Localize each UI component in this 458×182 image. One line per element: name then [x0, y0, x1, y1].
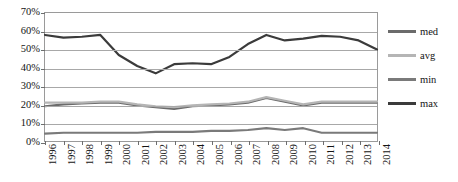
- y-axis-tick: [41, 50, 45, 51]
- y-axis-tick: [41, 124, 45, 125]
- x-axis-tick-label: 2009: [289, 144, 299, 165]
- x-axis-tick-label: 2011: [326, 144, 336, 165]
- y-axis-tick: [41, 87, 45, 88]
- y-axis-tick-label: 10%: [2, 118, 40, 128]
- legend-swatch-max: [388, 102, 416, 105]
- series-line-max: [45, 35, 377, 73]
- legend-swatch-med: [388, 30, 416, 33]
- x-axis-tick-label: 1996: [48, 144, 58, 165]
- x-axis-tick-label: 2014: [382, 144, 392, 165]
- y-axis-tick-label: 60%: [2, 26, 40, 36]
- x-axis-tick-label: 2001: [141, 144, 151, 165]
- gridline: [45, 87, 377, 88]
- legend-swatch-avg: [388, 54, 416, 57]
- legend-swatch-min: [388, 78, 416, 81]
- x-axis-tick-label: 2013: [363, 144, 373, 165]
- legend-label-max: max: [420, 98, 438, 109]
- x-axis-tick-label: 2008: [271, 144, 281, 165]
- legend-label-avg: avg: [420, 50, 435, 61]
- x-axis-tick-label: 2010: [308, 144, 318, 165]
- x-axis-tick-label: 2006: [234, 144, 244, 165]
- gridline: [45, 124, 377, 125]
- y-axis-tick-label: 40%: [2, 63, 40, 73]
- series-line-min: [45, 128, 377, 133]
- x-axis-tick-label: 1997: [67, 144, 77, 165]
- y-axis-labels: 0%10%20%30%40%50%60%70%: [0, 12, 40, 142]
- legend-item-min[interactable]: min: [388, 72, 436, 86]
- legend-label-med: med: [420, 26, 438, 37]
- y-axis-tick-label: 70%: [2, 7, 40, 17]
- x-axis-tick-label: 2004: [196, 144, 206, 165]
- x-axis-tick-label: 2012: [345, 144, 355, 165]
- y-axis-tick-label: 20%: [2, 100, 40, 110]
- gridline: [45, 69, 377, 70]
- x-axis-tick-label: 2005: [215, 144, 225, 165]
- y-axis-tick: [41, 32, 45, 33]
- chart-legend: medavgminmax: [388, 24, 458, 124]
- x-axis-tick: [379, 141, 380, 145]
- y-axis-tick: [41, 69, 45, 70]
- legend-item-max[interactable]: max: [388, 96, 438, 110]
- y-axis-tick-label: 30%: [2, 81, 40, 91]
- x-axis-labels: 1996199719981999200020012002200320042005…: [44, 144, 378, 182]
- y-axis-tick: [41, 13, 45, 14]
- chart-container: 0%10%20%30%40%50%60%70% 1996199719981999…: [0, 0, 458, 182]
- plot-area: [44, 12, 378, 142]
- x-axis-tick-label: 1999: [104, 144, 114, 165]
- legend-item-med[interactable]: med: [388, 24, 438, 38]
- x-axis-tick-label: 2000: [122, 144, 132, 165]
- x-axis-tick-label: 2007: [252, 144, 262, 165]
- x-axis-tick-label: 1998: [85, 144, 95, 165]
- x-axis-tick-label: 2002: [159, 144, 169, 165]
- y-axis-tick: [41, 106, 45, 107]
- y-axis-tick-label: 0%: [2, 137, 40, 147]
- legend-label-min: min: [420, 74, 436, 85]
- legend-item-avg[interactable]: avg: [388, 48, 435, 62]
- gridline: [45, 50, 377, 51]
- x-axis-tick-label: 2003: [178, 144, 188, 165]
- gridline: [45, 32, 377, 33]
- y-axis-tick-label: 50%: [2, 44, 40, 54]
- gridline: [45, 106, 377, 107]
